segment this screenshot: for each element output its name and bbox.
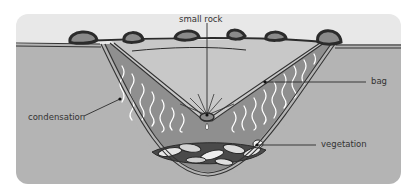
rock-icon (228, 30, 245, 39)
label-small-rock: small rock (179, 15, 222, 24)
rock-icon (124, 33, 143, 43)
solar-still-diagram (0, 0, 419, 194)
label-condensation: condensation (28, 113, 85, 122)
leader-dot (118, 97, 121, 100)
leader-dot (263, 80, 266, 83)
leader-dot (205, 113, 208, 116)
leader-dot (255, 143, 258, 146)
label-vegetation: vegetation (321, 140, 367, 149)
rock-icon (70, 32, 97, 43)
rock-icon (318, 31, 341, 45)
rock-icon (175, 31, 199, 40)
rock-icon (266, 32, 286, 40)
label-bag: bag (371, 77, 387, 86)
